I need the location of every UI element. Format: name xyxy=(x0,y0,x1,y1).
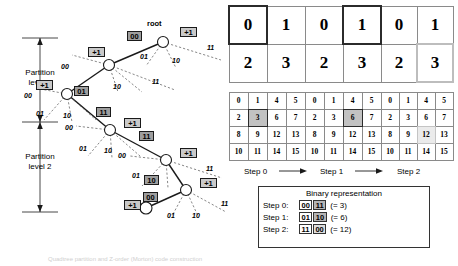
partition-level-2-line2: level 2 xyxy=(28,162,51,171)
grid4-step-1-cell-1: 1 xyxy=(324,92,344,110)
grid4-step-1: 0145236789121310111415 xyxy=(305,92,381,160)
edge-label-n4-00: 00 xyxy=(118,152,126,160)
grid2-step-1-cell-2: 2 xyxy=(305,44,344,83)
legend-step-1-high-bits: 01 xyxy=(299,212,312,222)
grid4-step-2-cell-3: 3 xyxy=(399,109,418,127)
grid4-step-0-cell-6: 6 xyxy=(267,109,287,127)
grid4-step-0-cell-14: 14 xyxy=(267,143,287,161)
legend-title: Binary representation xyxy=(259,187,429,199)
grid4-step-1-cell-8: 8 xyxy=(305,126,325,144)
grid4-step-1-cell-3: 3 xyxy=(324,109,344,127)
grid4-step-2-cell-1: 1 xyxy=(399,92,418,110)
grid4-step-0-cell-15: 15 xyxy=(286,143,306,161)
edge-label-root-11: 11 xyxy=(207,44,214,52)
legend-step-1-name: Step 1: xyxy=(263,212,299,223)
plus-badge-leaf: +1 xyxy=(124,200,141,210)
grid2-step-0-cell-1: 1 xyxy=(267,6,306,45)
plus-badge-node-1: +1 xyxy=(88,47,105,57)
grid4-step-1-cell-2: 2 xyxy=(305,109,325,127)
grid4-step-0-cell-12: 12 xyxy=(267,126,287,144)
plus-badge-node-3: +1 xyxy=(124,118,141,128)
grid4-step-0-cell-0: 0 xyxy=(229,92,249,110)
grid4-step-1-cell-15: 15 xyxy=(362,143,382,161)
grid2-step-1-cell-1: 1 xyxy=(342,5,382,45)
legend-step-2-high-bits: 11 xyxy=(299,224,312,234)
plus-badge-node-2: +1 xyxy=(36,80,53,90)
grid4-step-2-cell-2: 2 xyxy=(381,109,400,127)
branch-code-badge-node-3: 11 xyxy=(139,131,154,141)
legend-row-step-1: Step 1: 01 10 (= 6) xyxy=(259,211,429,223)
grid4-step-2: 0145236789121310111415 xyxy=(381,92,453,160)
legend-row-step-0: Step 0: 00 11 (= 3) xyxy=(259,199,429,211)
grid2-step-0: 0123 xyxy=(229,6,305,82)
edge-label-n2-10: 10 xyxy=(63,112,71,120)
grid4-step-2-cell-0: 0 xyxy=(381,92,400,110)
legend-step-2-result: (= 12) xyxy=(330,224,351,235)
grid4-step-2-cell-12: 12 xyxy=(417,126,436,144)
grid4-step-2-cell-10: 10 xyxy=(381,143,400,161)
grid4-step-1-cell-4: 4 xyxy=(343,92,363,110)
grid4-step-2-cell-8: 8 xyxy=(381,126,400,144)
edge-label-n1-00: 00 xyxy=(61,63,69,71)
edge-label-n1-11: 11 xyxy=(152,78,159,86)
grid4-step-0: 0145236789121310111415 xyxy=(229,92,305,160)
legend-step-0-high-bits: 00 xyxy=(299,200,312,210)
partition-level-1-line1: Partition xyxy=(25,68,54,77)
legend-row-step-2: Step 2: 11 00 (= 12) xyxy=(259,223,429,235)
binary-representation-legend: Binary representation Step 0: 00 11 (= 3… xyxy=(258,186,430,248)
grid4-step-1-cell-13: 13 xyxy=(362,126,382,144)
grid4-step-1-cell-10: 10 xyxy=(305,143,325,161)
plus-badge-root: +1 xyxy=(180,27,197,37)
edge-label-root-01: 01 xyxy=(140,53,148,61)
grid4-step-0-cell-9: 9 xyxy=(248,126,268,144)
grid4-step-1-cell-9: 9 xyxy=(324,126,344,144)
grid4-step-1-cell-0: 0 xyxy=(305,92,325,110)
grid4-step-1-cell-11: 11 xyxy=(324,143,344,161)
partition-level-2-line1: Partition xyxy=(25,152,54,161)
grid2-step-2-cell-1: 1 xyxy=(417,6,454,45)
legend-step-0-name: Step 0: xyxy=(263,200,299,211)
grid4-step-0-cell-8: 8 xyxy=(229,126,249,144)
edge-label-n4-11: 11 xyxy=(206,165,213,173)
edge-label-n5-11: 11 xyxy=(221,200,228,208)
edge-label-n3-00: 00 xyxy=(65,124,73,132)
legend-step-2-low-bits: 00 xyxy=(313,224,326,234)
legend-step-0-low-bits: 11 xyxy=(313,200,326,210)
branch-code-badge-node-1: 01 xyxy=(74,86,89,96)
edge-label-n2-01: 01 xyxy=(36,110,44,118)
grid4-step-0-cell-7: 7 xyxy=(286,109,306,127)
grid4-step-0-cell-5: 5 xyxy=(286,92,306,110)
grid2-step-2: 0123 xyxy=(381,6,453,82)
grid2-step-1: 0123 xyxy=(305,6,381,82)
grid4-step-2-cell-7: 7 xyxy=(435,109,454,127)
edge-label-n5-01: 01 xyxy=(167,212,175,220)
branch-code-badge-root: 00 xyxy=(127,31,142,41)
branch-code-badge-node-4: 10 xyxy=(144,175,159,185)
grid4-step-0-cell-10: 10 xyxy=(229,143,249,161)
plus-badge-node-5: +1 xyxy=(200,178,217,188)
edge-label-root-10: 10 xyxy=(172,57,180,65)
grid4-step-0-cell-2: 2 xyxy=(229,109,249,127)
root-label: root xyxy=(147,20,162,28)
figure-caption: Quadtree partition and Z-order (Morton) … xyxy=(48,256,202,262)
grid4-step-1-cell-5: 5 xyxy=(362,92,382,110)
grid4-step-0-cell-11: 11 xyxy=(248,143,268,161)
grid4-step-1-cell-6: 6 xyxy=(343,109,363,127)
grid4-step-0-cell-4: 4 xyxy=(267,92,287,110)
grid4-step-2-cell-11: 11 xyxy=(399,143,418,161)
legend-step-0-result: (= 3) xyxy=(330,200,347,211)
edge-label-n1-10: 10 xyxy=(113,83,121,91)
partition-level-2-label: Partition level 2 xyxy=(6,152,74,172)
grid4-step-1-cell-12: 12 xyxy=(343,126,363,144)
grid4-step-1-cell-14: 14 xyxy=(343,143,363,161)
grid4-step-2-cell-6: 6 xyxy=(417,109,436,127)
grid4-step-0-cell-3: 3 xyxy=(248,109,268,127)
grid2-step-2-cell-2: 2 xyxy=(381,44,418,83)
edge-label-n5-10: 10 xyxy=(192,212,200,220)
grid4-step-2-cell-4: 4 xyxy=(417,92,436,110)
grid2-step-0-cell-0: 0 xyxy=(228,5,268,45)
edge-label-n2-00: 00 xyxy=(24,92,32,100)
plus-badge-node-4: +1 xyxy=(180,148,197,158)
legend-step-2-name: Step 2: xyxy=(263,224,299,235)
grid4-step-2-cell-13: 13 xyxy=(435,126,454,144)
